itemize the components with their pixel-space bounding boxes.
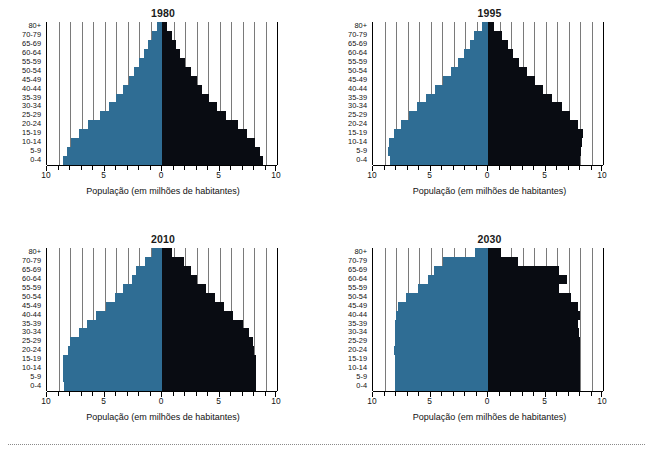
bar-right [162,138,255,147]
pyramid-row [373,337,603,346]
bar-right [488,120,578,129]
pyramid-row [373,147,603,156]
bar-left [418,284,488,293]
bar-right [162,76,197,85]
panel-2010: 2010 80+70-7965-6960-6455-5950-5445-4940… [0,226,326,451]
pyramid-row [373,355,603,364]
pyramid-row [373,346,603,355]
bar-left [68,346,162,355]
bar-left [134,67,162,76]
pyramid-row [373,275,603,284]
bar-right [162,94,209,103]
bar-right [162,248,172,257]
bar-right [488,284,559,293]
x-axis-tick-label: 10 [597,396,606,406]
panel-2030: 2030 80+70-7965-6960-6455-5950-5445-4940… [326,226,653,451]
plot-canvas [46,22,278,165]
x-tick-minor [499,392,500,396]
x-axis-tick-labels: 1050510 [46,396,276,408]
x-tick-minor [441,392,442,396]
x-axis-tick-label: 0 [159,170,164,180]
x-tick-minor [184,392,185,396]
x-tick-minor [522,166,523,170]
bar-left [398,302,488,311]
bar-left [401,120,488,129]
x-tick-minor [242,166,243,170]
bar-series [373,248,603,391]
x-axis-tick-label: 5 [427,170,432,180]
x-tick-minor [265,392,266,396]
pyramid-row [47,58,277,67]
pyramid-row [47,355,277,364]
x-tick-minor [568,166,569,170]
pyramid-row [47,382,277,391]
x-tick-minor [81,166,82,170]
x-tick-minor [115,392,116,396]
x-tick-minor [591,392,592,396]
x-axis-tick-label: 10 [41,396,50,406]
bar-left [464,49,488,58]
bar-right [162,355,256,364]
pyramid-row [47,85,277,94]
x-tick-minor [58,166,59,170]
y-axis-tick-label: 0-4 [326,156,370,165]
x-axis: 1050510 [46,166,276,188]
pyramid-row [47,337,277,346]
bar-left [394,129,488,138]
bar-left [394,346,488,355]
bar-right [162,284,206,293]
x-tick-minor [384,392,385,396]
x-axis-tick-label: 5 [542,170,547,180]
bar-left [148,40,162,49]
bar-left [443,76,488,85]
pyramid-figure-grid: 1980 80+70-7965-6960-6455-5950-5445-4940… [0,0,653,451]
pyramid-row [47,120,277,129]
x-axis-tick-labels: 1050510 [46,170,276,182]
pyramid-row [47,156,277,165]
pyramid-row [47,364,277,373]
pyramid-row [47,293,277,302]
x-tick-minor [407,166,408,170]
pyramid-row [373,138,603,147]
x-axis-tick-label: 10 [597,170,606,180]
x-tick-minor [196,166,197,170]
bar-right [162,58,185,67]
bar-left [63,156,162,165]
x-tick-minor [533,166,534,170]
x-tick-minor [230,392,231,396]
bar-right [488,129,583,138]
bar-left [136,266,162,275]
x-tick-minor [127,392,128,396]
x-tick-minor [441,166,442,170]
bar-right [162,266,191,275]
bar-right [488,346,580,355]
x-axis-title: População (em milhões de habitantes) [0,412,326,422]
bar-right [488,382,580,391]
panel-1995: 1995 80+70-7965-6960-6455-5950-5445-4940… [326,0,653,226]
x-tick-minor [196,392,197,396]
panel-title: 1980 [0,0,326,20]
bar-right [162,67,191,76]
y-axis-labels: 80+70-7965-6960-6455-5950-5445-4940-4435… [326,248,370,391]
x-tick-minor [207,166,208,170]
y-axis-labels: 80+70-7965-6960-6455-5950-5445-4940-4435… [326,22,370,165]
bar-right [162,147,260,156]
bar-left [63,364,162,373]
x-tick-minor [453,392,454,396]
pyramid-row [373,364,603,373]
bar-right [488,102,562,111]
x-axis-title: População (em milhões de habitantes) [0,186,326,196]
bar-right [162,346,254,355]
bar-left [389,138,488,147]
pyramid-row [47,320,277,329]
plot-canvas [372,22,604,165]
bar-left [70,337,162,346]
plot-canvas [372,248,604,391]
pyramid-row [47,266,277,275]
pyramid-row [373,102,603,111]
x-tick-minor [418,392,419,396]
x-tick-minor [464,392,465,396]
bar-left [63,373,162,382]
bar-left [106,302,162,311]
x-tick-minor [69,392,70,396]
